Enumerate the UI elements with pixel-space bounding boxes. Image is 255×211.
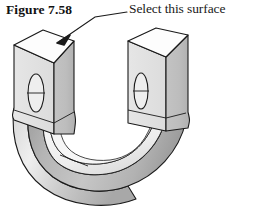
figure-container: Figure 7.58 Select this surface xyxy=(0,0,255,211)
leader-line xyxy=(60,12,127,41)
callout-annotation xyxy=(57,12,127,45)
solid-body xyxy=(13,28,190,205)
u-shaped-bracket-illustration xyxy=(0,0,255,211)
